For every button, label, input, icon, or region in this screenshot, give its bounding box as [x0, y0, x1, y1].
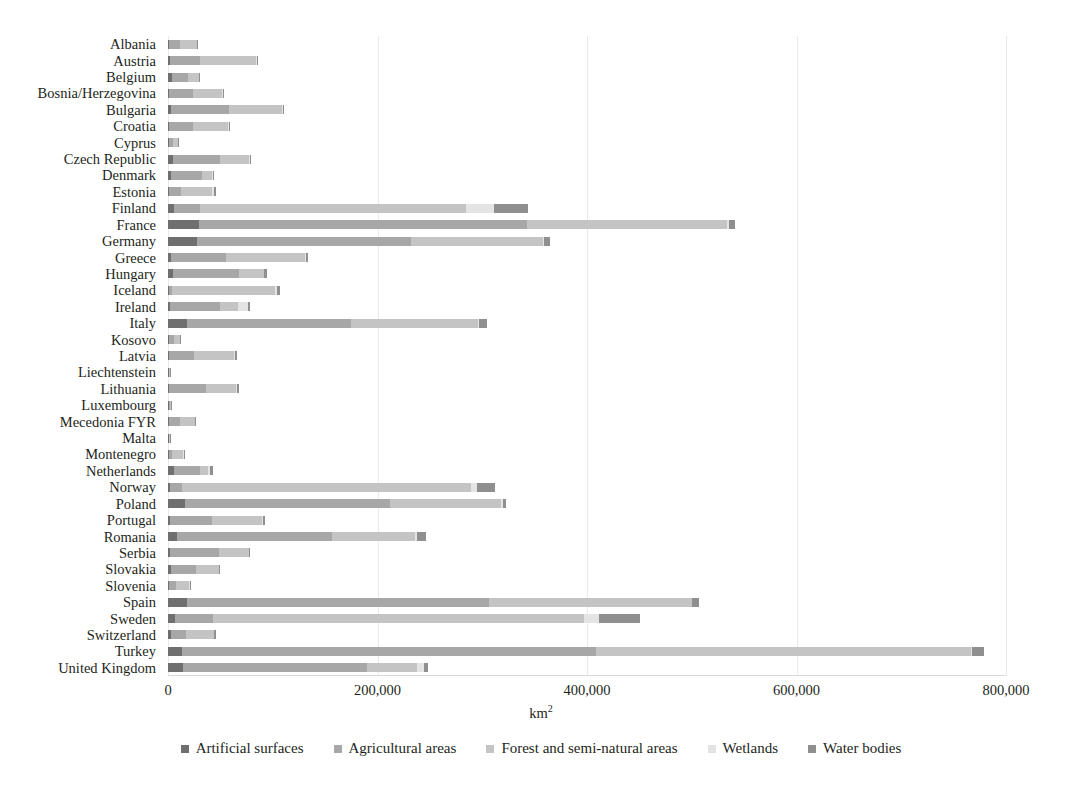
stacked-bar[interactable]	[168, 89, 224, 98]
bar-row[interactable]	[168, 512, 1006, 528]
bar-segment[interactable]	[168, 663, 183, 672]
bar-segment[interactable]	[170, 548, 219, 557]
bar-segment[interactable]	[182, 647, 597, 656]
bar-segment[interactable]	[174, 466, 200, 475]
legend-item[interactable]: Agricultural areas	[334, 740, 457, 757]
bar-row[interactable]	[168, 660, 1006, 676]
bar-row[interactable]	[168, 446, 1006, 462]
bar-segment[interactable]	[202, 171, 212, 180]
stacked-bar[interactable]	[168, 548, 250, 557]
bar-segment[interactable]	[250, 155, 251, 164]
bar-segment[interactable]	[169, 384, 206, 393]
bar-segment[interactable]	[479, 319, 487, 328]
stacked-bar[interactable]	[168, 630, 216, 639]
bar-segment[interactable]	[171, 401, 172, 410]
bar-row[interactable]	[168, 85, 1006, 101]
stacked-bar[interactable]	[168, 516, 265, 525]
bar-segment[interactable]	[171, 565, 196, 574]
bar-row[interactable]	[168, 315, 1006, 331]
bar-segment[interactable]	[168, 319, 187, 328]
bar-segment[interactable]	[729, 220, 734, 229]
bar-segment[interactable]	[174, 204, 200, 213]
stacked-bar[interactable]	[168, 40, 198, 49]
bar-segment[interactable]	[181, 187, 212, 196]
bar-segment[interactable]	[214, 630, 215, 639]
bar-segment[interactable]	[332, 532, 416, 541]
bar-row[interactable]	[168, 643, 1006, 659]
bar-segment[interactable]	[169, 187, 181, 196]
bar-segment[interactable]	[367, 663, 417, 672]
stacked-bar[interactable]	[168, 384, 239, 393]
bar-segment[interactable]	[169, 122, 193, 131]
bar-segment[interactable]	[477, 483, 495, 492]
bar-segment[interactable]	[200, 204, 466, 213]
legend-item[interactable]: Wetlands	[708, 740, 778, 757]
bar-segment[interactable]	[168, 237, 197, 246]
stacked-bar[interactable]	[168, 204, 528, 213]
bar-row[interactable]	[168, 528, 1006, 544]
bar-segment[interactable]	[194, 351, 234, 360]
bar-segment[interactable]	[176, 581, 190, 590]
bar-segment[interactable]	[190, 581, 191, 590]
bar-segment[interactable]	[170, 302, 220, 311]
bar-segment[interactable]	[226, 253, 305, 262]
bar-row[interactable]	[168, 479, 1006, 495]
bar-row[interactable]	[168, 282, 1006, 298]
stacked-bar[interactable]	[168, 417, 196, 426]
stacked-bar[interactable]	[168, 565, 220, 574]
bar-segment[interactable]	[220, 302, 238, 311]
bar-row[interactable]	[168, 430, 1006, 446]
bar-segment[interactable]	[199, 220, 527, 229]
bar-segment[interactable]	[489, 598, 692, 607]
bar-segment[interactable]	[237, 384, 239, 393]
bar-segment[interactable]	[417, 532, 425, 541]
bar-segment[interactable]	[182, 483, 471, 492]
bar-segment[interactable]	[466, 204, 494, 213]
bar-row[interactable]	[168, 578, 1006, 594]
bar-row[interactable]	[168, 463, 1006, 479]
bar-row[interactable]	[168, 495, 1006, 511]
bar-segment[interactable]	[169, 351, 194, 360]
bar-segment[interactable]	[169, 89, 193, 98]
bar-segment[interactable]	[263, 516, 265, 525]
bar-row[interactable]	[168, 413, 1006, 429]
bar-segment[interactable]	[972, 647, 984, 656]
bar-segment[interactable]	[195, 417, 196, 426]
bar-segment[interactable]	[186, 630, 213, 639]
stacked-bar[interactable]	[168, 663, 428, 672]
bar-row[interactable]	[168, 561, 1006, 577]
bar-segment[interactable]	[184, 450, 185, 459]
bar-segment[interactable]	[210, 466, 214, 475]
bar-segment[interactable]	[171, 630, 187, 639]
bar-segment[interactable]	[390, 499, 501, 508]
bar-segment[interactable]	[171, 253, 227, 262]
bar-segment[interactable]	[249, 548, 250, 557]
bar-segment[interactable]	[168, 614, 175, 623]
stacked-bar[interactable]	[168, 351, 237, 360]
bar-segment[interactable]	[168, 598, 187, 607]
bar-row[interactable]	[168, 233, 1006, 249]
stacked-bar[interactable]	[168, 499, 506, 508]
stacked-bar[interactable]	[168, 73, 200, 82]
bar-segment[interactable]	[213, 171, 214, 180]
stacked-bar[interactable]	[168, 368, 170, 377]
bar-row[interactable]	[168, 348, 1006, 364]
bar-segment[interactable]	[692, 598, 698, 607]
bar-segment[interactable]	[257, 56, 258, 65]
bar-segment[interactable]	[172, 450, 184, 459]
bar-segment[interactable]	[175, 614, 213, 623]
bar-segment[interactable]	[169, 40, 181, 49]
bar-row[interactable]	[168, 118, 1006, 134]
bar-segment[interactable]	[197, 40, 198, 49]
bar-segment[interactable]	[168, 220, 199, 229]
bar-segment[interactable]	[503, 499, 506, 508]
bar-segment[interactable]	[193, 122, 228, 131]
bar-segment[interactable]	[584, 614, 599, 623]
bar-row[interactable]	[168, 397, 1006, 413]
bar-segment[interactable]	[199, 73, 200, 82]
bar-segment[interactable]	[183, 663, 367, 672]
bar-segment[interactable]	[264, 269, 266, 278]
stacked-bar[interactable]	[168, 647, 984, 656]
bar-row[interactable]	[168, 545, 1006, 561]
bar-segment[interactable]	[596, 647, 971, 656]
